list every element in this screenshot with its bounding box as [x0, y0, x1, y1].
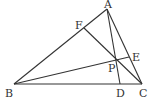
- triangle-diagram: ABCDEFP: [0, 0, 156, 101]
- point-label-c: C: [139, 87, 147, 100]
- point-label-e: E: [132, 51, 140, 64]
- point-label-a: A: [103, 0, 113, 11]
- point-label-b: B: [5, 87, 13, 100]
- point-label-f: F: [75, 19, 83, 32]
- point-label-p: P: [108, 62, 116, 75]
- point-label-d: D: [116, 87, 125, 100]
